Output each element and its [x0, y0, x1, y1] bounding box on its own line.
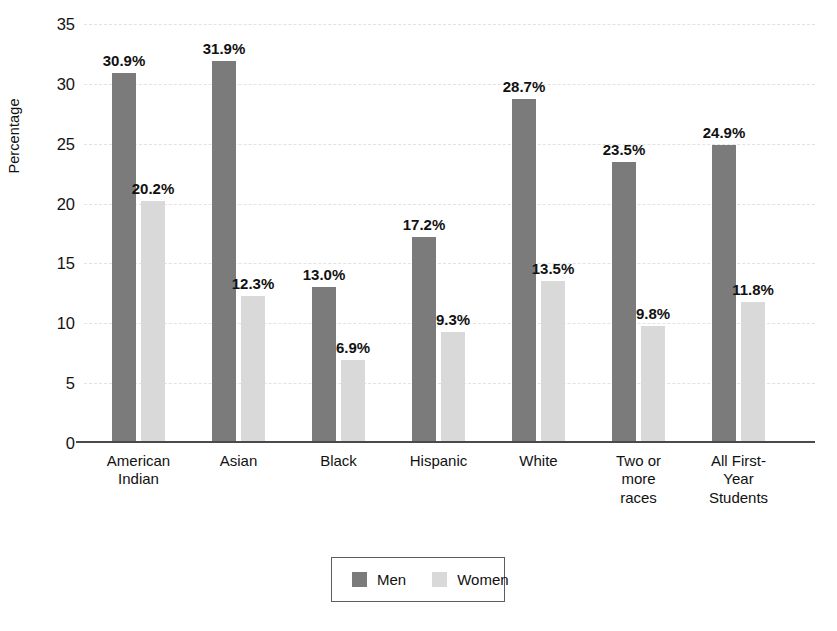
x-axis-category-label: American Indian — [107, 452, 170, 489]
gridline — [84, 84, 815, 85]
y-axis-tick-label: 25 — [57, 135, 75, 152]
bar-value-label: 24.9% — [703, 125, 746, 140]
bar-men-3 — [412, 237, 436, 443]
chart-page: Percentage 05101520253035 30.9%20.2%31.9… — [0, 0, 837, 631]
bar-women-1 — [241, 296, 265, 443]
x-axis-line — [76, 441, 815, 443]
bar-women-4 — [541, 281, 565, 443]
bar-value-label: 17.2% — [403, 217, 446, 232]
y-axis-tick-label: 10 — [57, 315, 75, 332]
chart-legend: MenWomen — [331, 557, 505, 602]
bar-value-label: 20.2% — [132, 181, 175, 196]
gridline — [84, 24, 815, 25]
y-axis-title: Percentage — [6, 76, 22, 196]
x-axis-category-label: White — [519, 452, 557, 470]
legend-label: Women — [457, 571, 508, 588]
y-axis-tick-label: 0 — [66, 435, 75, 452]
y-axis-tick-label: 35 — [57, 16, 75, 33]
legend-swatch-icon — [352, 572, 367, 587]
x-axis-category-label: Black — [320, 452, 357, 470]
y-axis-tick-label: 5 — [66, 375, 75, 392]
y-axis-tick-label: 30 — [57, 76, 75, 93]
bar-value-label: 9.3% — [436, 312, 470, 327]
bar-men-2 — [312, 287, 336, 443]
x-axis-category-label: Two or more races — [616, 452, 661, 507]
gridline — [84, 144, 815, 145]
bar-value-label: 23.5% — [603, 142, 646, 157]
bar-value-label: 12.3% — [232, 276, 275, 291]
legend-swatch-icon — [432, 572, 447, 587]
bar-women-2 — [341, 360, 365, 443]
bar-men-5 — [612, 162, 636, 443]
x-axis-category-label: All First- Year Students — [709, 452, 768, 507]
x-axis-category-label: Asian — [220, 452, 258, 470]
bar-women-3 — [441, 332, 465, 443]
bar-value-label: 31.9% — [203, 41, 246, 56]
y-axis-tick-label: 15 — [57, 255, 75, 272]
x-axis-category-label: Hispanic — [410, 452, 468, 470]
bar-value-label: 11.8% — [732, 282, 774, 297]
bar-women-6 — [741, 302, 765, 443]
bar-women-5 — [641, 326, 665, 443]
bar-value-label: 28.7% — [503, 79, 546, 94]
legend-row: MenWomen — [332, 558, 504, 601]
legend-item-women[interactable]: Women — [432, 571, 508, 588]
plot-area: 05101520253035 30.9%20.2%31.9%12.3%13.0%… — [84, 24, 815, 443]
gridline — [84, 263, 815, 264]
bar-value-label: 30.9% — [103, 53, 146, 68]
legend-item-men[interactable]: Men — [352, 571, 406, 588]
gridline — [84, 204, 815, 205]
bar-value-label: 9.8% — [636, 306, 670, 321]
bar-value-label: 13.0% — [303, 267, 346, 282]
bar-value-label: 13.5% — [532, 261, 575, 276]
legend-label: Men — [377, 571, 406, 588]
bar-value-label: 6.9% — [336, 340, 370, 355]
bar-women-0 — [141, 201, 165, 443]
y-axis-tick-label: 20 — [57, 195, 75, 212]
bar-men-1 — [212, 61, 236, 443]
bar-men-0 — [112, 73, 136, 443]
